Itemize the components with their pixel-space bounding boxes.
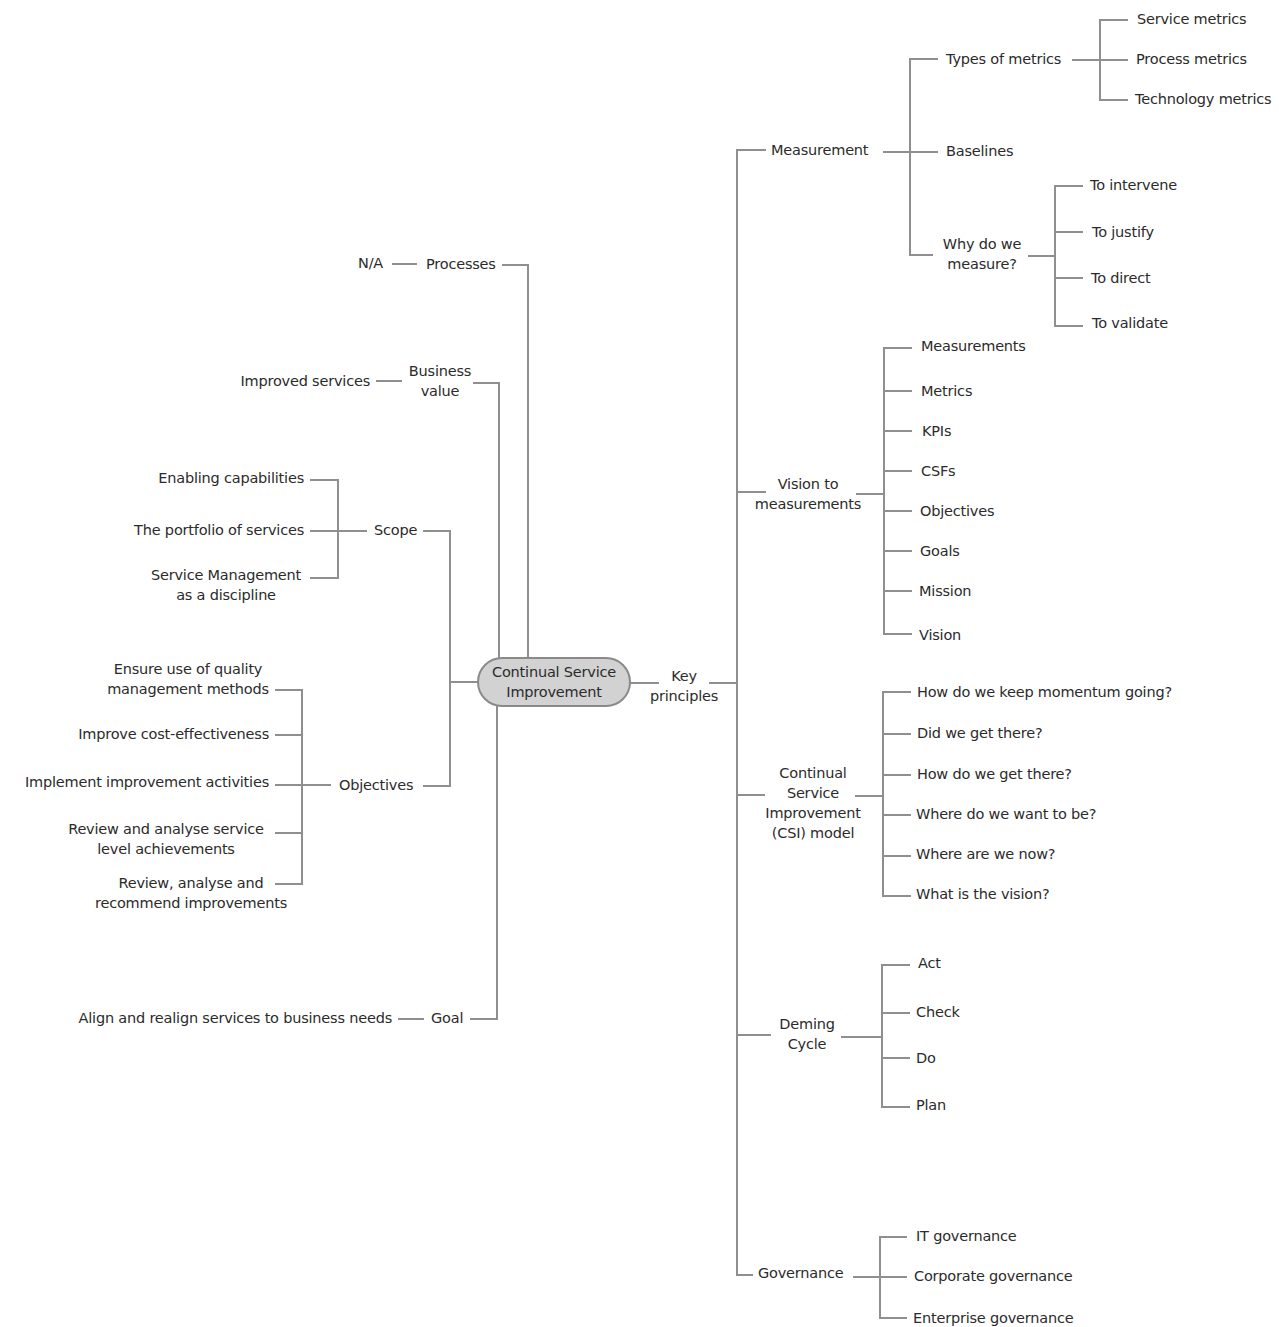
node-csi-model[interactable]: Continual Service Improvement (CSI) mode…	[758, 763, 868, 843]
node-to-intervene[interactable]: To intervene	[1090, 175, 1177, 195]
node-objectives-vision[interactable]: Objectives	[920, 501, 994, 521]
node-plan[interactable]: Plan	[916, 1095, 946, 1115]
node-objectives[interactable]: Objectives	[339, 775, 413, 795]
node-technology-metrics[interactable]: Technology metrics	[1135, 89, 1271, 109]
root-node-continual-service-improvement[interactable]: Continual Service Improvement	[477, 657, 631, 707]
node-it-governance[interactable]: IT governance	[916, 1226, 1017, 1246]
node-to-validate[interactable]: To validate	[1092, 313, 1168, 333]
node-baselines[interactable]: Baselines	[946, 141, 1013, 161]
node-deming-cycle[interactable]: Deming Cycle	[766, 1014, 848, 1054]
node-metrics[interactable]: Metrics	[921, 381, 972, 401]
node-vision[interactable]: Vision	[919, 625, 961, 645]
node-where-are-we-now[interactable]: Where are we now?	[916, 844, 1055, 864]
node-where-want-to-be[interactable]: Where do we want to be?	[916, 804, 1096, 824]
node-implement-improvement-activities[interactable]: Implement improvement activities	[4, 772, 269, 792]
node-service-management-discipline[interactable]: Service Management as a discipline	[140, 565, 312, 605]
node-scope[interactable]: Scope	[374, 520, 417, 540]
node-goals[interactable]: Goals	[920, 541, 960, 561]
node-goal[interactable]: Goal	[431, 1008, 463, 1028]
node-align-realign-services[interactable]: Align and realign services to business n…	[40, 1008, 392, 1028]
node-types-of-metrics[interactable]: Types of metrics	[946, 49, 1061, 69]
node-csfs[interactable]: CSFs	[921, 461, 955, 481]
node-measurements[interactable]: Measurements	[921, 336, 1026, 356]
node-act[interactable]: Act	[918, 953, 941, 973]
node-vision-to-measurements[interactable]: Vision to measurements	[750, 474, 866, 514]
node-key-principles[interactable]: Key principles	[644, 666, 724, 706]
node-portfolio-of-services[interactable]: The portfolio of services	[60, 520, 304, 540]
node-measurement[interactable]: Measurement	[771, 140, 868, 160]
node-governance[interactable]: Governance	[758, 1263, 843, 1283]
node-to-direct[interactable]: To direct	[1091, 268, 1151, 288]
node-enabling-capabilities[interactable]: Enabling capabilities	[60, 468, 304, 488]
node-kpis[interactable]: KPIs	[922, 421, 951, 441]
node-did-we-get-there[interactable]: Did we get there?	[917, 723, 1042, 743]
node-why-do-we-measure[interactable]: Why do we measure?	[930, 234, 1034, 274]
node-what-is-the-vision[interactable]: What is the vision?	[916, 884, 1049, 904]
node-ensure-quality-methods[interactable]: Ensure use of quality management methods	[96, 659, 280, 699]
node-service-metrics[interactable]: Service metrics	[1137, 9, 1246, 29]
node-review-service-level[interactable]: Review and analyse service level achieve…	[60, 819, 272, 859]
node-how-do-we-get-there[interactable]: How do we get there?	[917, 764, 1072, 784]
node-process-metrics[interactable]: Process metrics	[1136, 49, 1247, 69]
node-to-justify[interactable]: To justify	[1092, 222, 1154, 242]
node-improve-cost-effectiveness[interactable]: Improve cost-effectiveness	[20, 724, 269, 744]
node-processes[interactable]: Processes	[426, 254, 496, 274]
node-processes-na[interactable]: N/A	[358, 253, 383, 273]
node-improved-services[interactable]: Improved services	[200, 371, 370, 391]
node-business-value[interactable]: Business value	[400, 361, 480, 401]
node-mission[interactable]: Mission	[919, 581, 971, 601]
node-do[interactable]: Do	[916, 1048, 936, 1068]
node-check[interactable]: Check	[916, 1002, 960, 1022]
node-review-recommend-improvements[interactable]: Review, analyse and recommend improvemen…	[86, 873, 296, 913]
node-keep-momentum[interactable]: How do we keep momentum going?	[917, 682, 1172, 702]
node-enterprise-governance[interactable]: Enterprise governance	[913, 1308, 1073, 1327]
node-corporate-governance[interactable]: Corporate governance	[914, 1266, 1073, 1286]
